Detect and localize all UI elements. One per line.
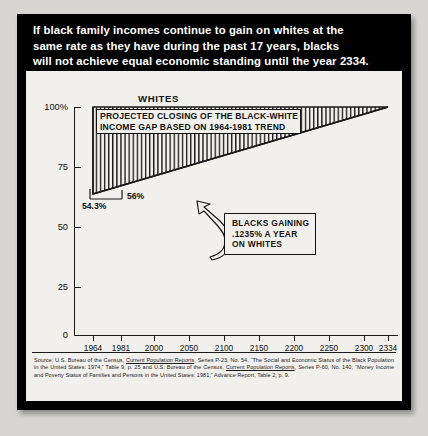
source-italic-2: Current Population Reports [226,364,295,370]
chart-panel: 100% 75 50 25 0 [26,71,402,401]
callout-arrow-icon [26,71,402,350]
source-text: Source: U.S. Bureau of the Census, Curre… [34,357,394,379]
source-italic-1: Current Population Reports [126,357,194,363]
source-footnote: Source: U.S. Bureau of the Census, Curre… [26,350,402,401]
poster-card: If black family incomes continue to gain… [17,14,411,410]
headline-line-1: If black family incomes continue to gain… [33,23,395,39]
callout-line-1: BLACKS GAINING [232,218,309,228]
headline-line-2: same rate as they have during the past 1… [33,39,395,55]
footnote-divider [32,352,396,353]
source-prefix: Source: U.S. Bureau of the Census, [34,357,126,363]
headline-line-3: will not achieve equal economic standing… [33,54,395,70]
headline-banner: If black family incomes continue to gain… [17,14,411,70]
chart-plot-area: 100% 75 50 25 0 [26,71,402,350]
callout-line-3: ON WHITES [232,239,282,249]
callout-line-2: .1235% A YEAR [232,229,298,239]
callout-box-gaining-rate: BLACKS GAINING .1235% A YEAR ON WHITES [224,213,316,255]
